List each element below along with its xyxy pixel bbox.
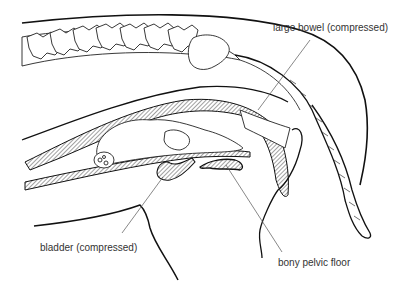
label-bladder: bladder (compressed) [40,243,137,253]
bony-pelvic-floor [200,159,242,170]
vertebral-column [22,23,240,69]
label-large-bowel: large bowel (compressed) [273,23,388,33]
label-bony-pelvic-floor: bony pelvic floor [278,258,350,268]
anatomy-illustration [0,0,412,298]
large-bowel [240,110,290,148]
diagram-canvas: large bowel (compressed) bladder (compre… [0,0,412,298]
